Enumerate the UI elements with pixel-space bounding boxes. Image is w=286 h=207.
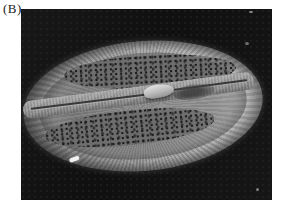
sem-micrograph-photo bbox=[21, 9, 272, 200]
diatom-specimen bbox=[21, 31, 268, 181]
dust-speck-2 bbox=[245, 42, 249, 45]
panel-label: (B) bbox=[3, 1, 22, 17]
dust-speck-1 bbox=[249, 11, 253, 13]
figure-panel: (B) bbox=[0, 0, 286, 207]
dust-speck-3 bbox=[256, 188, 259, 191]
